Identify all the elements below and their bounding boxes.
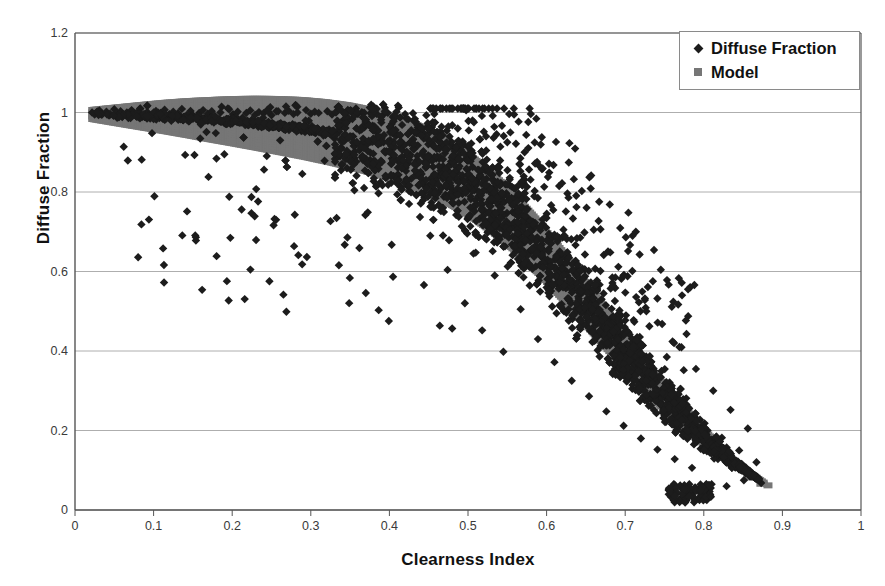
x-tick-label: 0.6 xyxy=(522,519,572,533)
y-tick-label: 0.6 xyxy=(28,265,68,279)
x-tick-label: 0.3 xyxy=(286,519,336,533)
x-tick-label: 0.5 xyxy=(443,519,493,533)
chart-legend: Diffuse Fraction Model xyxy=(679,31,860,90)
legend-label-model: Model xyxy=(711,64,759,81)
diamond-marker-icon xyxy=(690,45,706,52)
x-axis-title: Clearness Index xyxy=(75,550,861,570)
x-tick-label: 0.2 xyxy=(207,519,257,533)
diffuse-fraction-series xyxy=(88,100,766,506)
legend-entry-diffuse-fraction[interactable]: Diffuse Fraction xyxy=(680,36,859,60)
x-tick-label: 0 xyxy=(50,519,100,533)
y-tick-label: 0.2 xyxy=(28,424,68,438)
x-tick-label: 0.4 xyxy=(364,519,414,533)
x-tick-label: 0.7 xyxy=(600,519,650,533)
x-tick-label: 0.8 xyxy=(679,519,729,533)
chart-figure: Diffuse Fraction Clearness Index 00.20.4… xyxy=(0,0,885,586)
y-tick-label: 1 xyxy=(28,106,68,120)
y-axis-tick-labels: 00.20.40.60.811.2 xyxy=(20,0,68,586)
y-tick-label: 0.4 xyxy=(28,344,68,358)
x-tick-label: 0.9 xyxy=(757,519,807,533)
x-tick-label: 1 xyxy=(836,519,885,533)
y-tick-label: 0.8 xyxy=(28,185,68,199)
legend-label-diffuse-fraction: Diffuse Fraction xyxy=(711,40,837,57)
x-axis-tick-labels: 00.10.20.30.40.50.60.70.80.91 xyxy=(0,519,885,543)
legend-entry-model[interactable]: Model xyxy=(680,60,859,84)
x-tick-label: 0.1 xyxy=(129,519,179,533)
square-marker-icon xyxy=(690,68,706,76)
y-tick-label: 1.2 xyxy=(28,26,68,40)
y-tick-label: 0 xyxy=(28,503,68,517)
